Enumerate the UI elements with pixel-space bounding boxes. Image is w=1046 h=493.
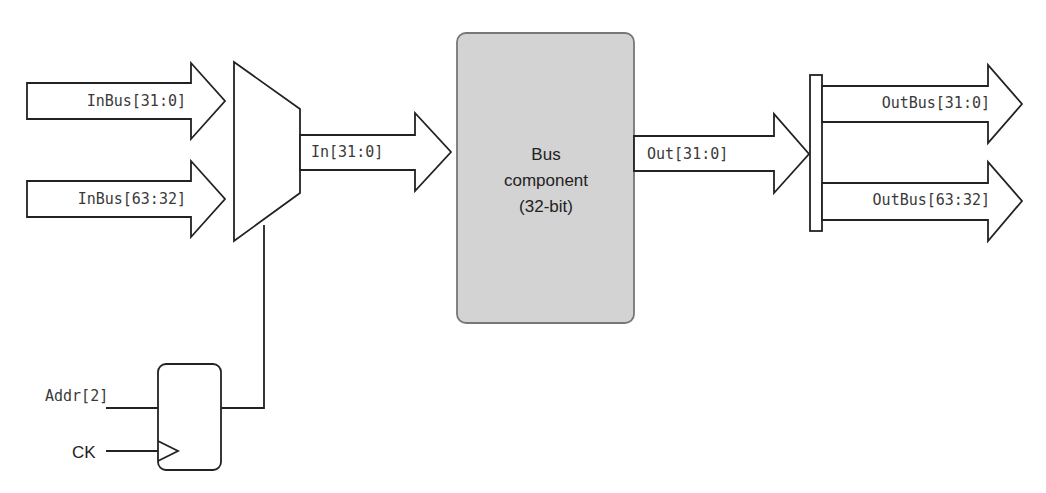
clock-label: CK <box>72 443 96 462</box>
inbus-low-arrow: InBus[31:0] <box>27 63 225 139</box>
outbus-low-label: OutBus[31:0] <box>882 94 990 112</box>
outbus-high-label: OutBus[63:32] <box>873 191 990 209</box>
bus-diagram: InBus[31:0] InBus[63:32] In[31:0] Bus co… <box>0 0 1046 493</box>
addr-label: Addr[2] <box>45 387 108 405</box>
outbus-high-arrow: OutBus[63:32] <box>822 162 1022 241</box>
component-label-line2: component <box>504 171 588 190</box>
component-output-label: Out[31:0] <box>647 145 728 163</box>
inbus-high-arrow: InBus[63:32] <box>27 161 225 237</box>
outbus-low-arrow: OutBus[31:0] <box>822 65 1022 143</box>
multiplexer <box>234 62 300 241</box>
inbus-low-label: InBus[31:0] <box>87 92 186 110</box>
component-output-arrow: Out[31:0] <box>634 114 809 193</box>
bus-component: Bus component (32-bit) <box>457 33 634 323</box>
select-wire <box>221 225 264 408</box>
component-label-line1: Bus <box>531 145 560 164</box>
component-label-line3: (32-bit) <box>519 197 573 216</box>
inbus-high-label: InBus[63:32] <box>78 190 186 208</box>
mux-output-arrow: In[31:0] <box>300 113 451 191</box>
flip-flop-register <box>158 364 221 470</box>
mux-output-label: In[31:0] <box>311 143 383 161</box>
bus-splitter <box>810 75 822 231</box>
